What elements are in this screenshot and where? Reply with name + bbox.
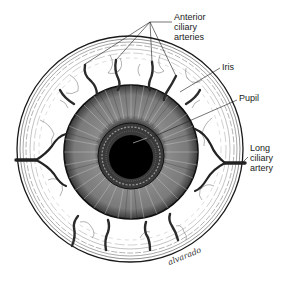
eye-anatomy-diagram: Anterior ciliary arteries Iris Pupil Lon… [0, 0, 289, 284]
label-long-ciliary-artery: Long ciliary artery [250, 143, 273, 173]
pupil [109, 135, 153, 179]
label-line: Pupil [239, 93, 259, 103]
label-line: Anterior [174, 12, 206, 22]
label-line: Long [250, 143, 273, 153]
label-iris: Iris [222, 62, 234, 72]
label-pupil: Pupil [239, 93, 259, 103]
label-line: ciliary [250, 153, 273, 163]
eye-illustration [0, 0, 289, 284]
label-line: ciliary [174, 22, 206, 32]
label-line: arteries [174, 32, 206, 42]
label-line: artery [250, 163, 273, 173]
label-anterior-ciliary-arteries: Anterior ciliary arteries [174, 12, 206, 42]
label-line: Iris [222, 62, 234, 72]
